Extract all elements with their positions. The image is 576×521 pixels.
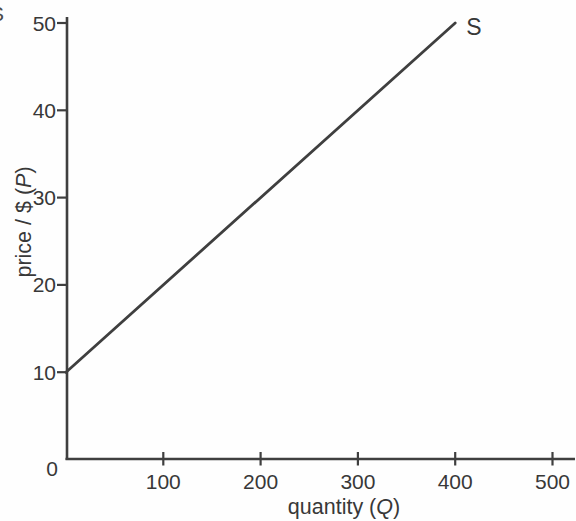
cropped-edge-glyph: S: [0, 2, 4, 26]
x-tick-label: 300: [340, 470, 375, 493]
y-tick-label: 30: [33, 186, 56, 209]
y-tick-label: 50: [33, 12, 56, 35]
x-tick-label: 400: [438, 470, 473, 493]
y-tick-label: 10: [33, 361, 56, 384]
origin-label: 0: [46, 457, 58, 480]
y-tick-label: 20: [33, 273, 56, 296]
y-tick-label: 40: [33, 99, 56, 122]
supply-curve-chart: 10203040500100200300400500quantity (Q)pr…: [0, 0, 576, 521]
x-tick-label: 100: [146, 470, 181, 493]
x-axis-title: quantity (Q): [288, 495, 400, 519]
figure-canvas: S 10203040500100200300400500quantity (Q)…: [0, 0, 576, 521]
supply-curve-label: S: [466, 14, 481, 40]
y-axis-title: price / $ (P): [12, 166, 36, 277]
supply-curve-line: [66, 23, 455, 372]
x-tick-label: 500: [535, 470, 570, 493]
x-tick-label: 200: [243, 470, 278, 493]
